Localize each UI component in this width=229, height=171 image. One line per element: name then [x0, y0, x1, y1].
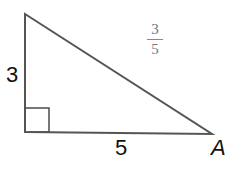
horizontal-leg-label: 5	[115, 135, 127, 161]
vertical-leg-label: 3	[6, 62, 18, 88]
fraction-label: 3 5	[145, 22, 165, 57]
right-angle-marker	[25, 108, 49, 132]
fraction-denominator: 5	[145, 42, 165, 57]
triangle-diagram: 3 5 A 3 5	[0, 0, 229, 171]
vertex-a-label: A	[211, 135, 226, 161]
fraction-numerator: 3	[145, 22, 165, 37]
fraction-bar	[147, 39, 163, 40]
